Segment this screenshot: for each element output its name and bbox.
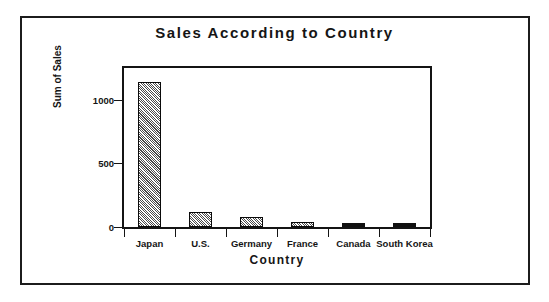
bar-u-s: [189, 212, 212, 227]
x-tick-mark: [379, 229, 380, 237]
y-tick-label: 500: [66, 158, 114, 169]
bar-japan: [138, 82, 161, 227]
bar-south-korea: [393, 223, 416, 227]
bar-france: [291, 222, 314, 227]
y-axis-tick-labels: 05001000: [66, 0, 114, 302]
x-tick-label: France: [287, 238, 318, 249]
y-tick-label: 0: [66, 222, 114, 233]
x-tick-label: U.S.: [191, 238, 209, 249]
x-tick-label: Japan: [136, 238, 163, 249]
y-tick-label: 1000: [66, 94, 114, 105]
y-axis-title: Sum of Sales: [52, 18, 63, 108]
x-tick-mark: [175, 229, 176, 237]
x-tick-mark: [226, 229, 227, 237]
bar-germany: [240, 217, 263, 227]
x-tick-label: Canada: [336, 238, 370, 249]
bar-canada: [342, 223, 365, 227]
x-tick-mark: [277, 229, 278, 237]
x-tick-label: South Korea: [376, 238, 432, 249]
x-tick-mark: [430, 229, 431, 237]
x-tick-mark: [328, 229, 329, 237]
x-tick-label: Germany: [231, 238, 272, 249]
chart-screenshot: Sales According to Country Sum of Sales …: [0, 0, 549, 302]
plot-canvas: [124, 68, 430, 227]
x-tick-mark: [124, 229, 125, 237]
x-axis-title: Country: [122, 253, 432, 267]
